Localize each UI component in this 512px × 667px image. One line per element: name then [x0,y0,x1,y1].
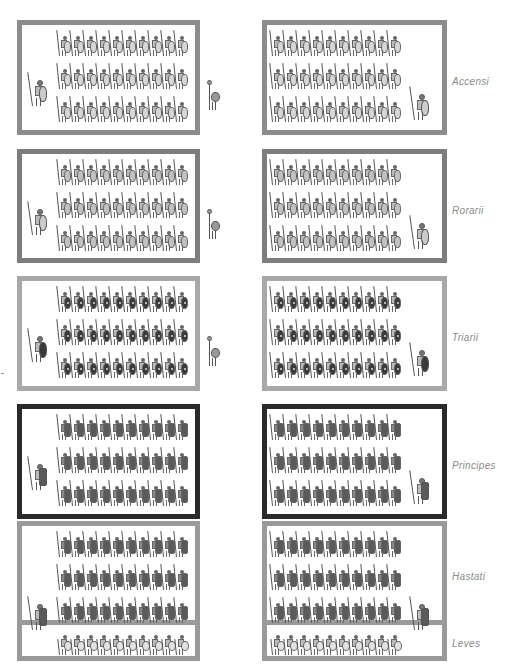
legs-part [62,245,66,251]
legs-part [36,622,41,630]
soldier-icon [388,414,401,440]
legs-part [379,649,383,655]
legs-part [418,112,423,120]
soldier-icon [110,629,123,655]
legs-part [314,584,318,590]
soldier-icon [375,629,388,655]
legs-part [179,50,183,56]
legs-part [379,306,383,312]
rank-row [58,319,188,345]
soldier-icon [175,63,188,89]
legs-part [392,551,396,557]
standard-bearer-icon [206,209,220,239]
legs-part [366,649,370,655]
spear-part [57,639,60,655]
legs-part [314,649,318,655]
legs-part [114,500,118,506]
rank-row [271,414,401,440]
legs-part [288,83,292,89]
soldier-icon [388,531,401,557]
legs-part [392,306,396,312]
soldier-icon [175,352,188,378]
legs-part [353,116,357,122]
legs-part [75,584,79,590]
soldier-icon [349,629,362,655]
legs-part [88,212,92,218]
legs-part [301,245,305,251]
legs-part [153,500,157,506]
legs-part [114,339,118,345]
soldier-icon [97,629,110,655]
legs-part [275,116,279,122]
rank-row [271,597,401,623]
rank-row [271,225,401,251]
legs-part [327,584,331,590]
spear-part [83,639,86,655]
legs-part [301,467,305,473]
legs-part [88,500,92,506]
legs-part [140,584,144,590]
legs-part [153,116,157,122]
legs-part [75,617,79,623]
legs-part [301,649,305,655]
legs-part [392,617,396,623]
legs-part [392,83,396,89]
legs-part [62,116,66,122]
centurion-icon [412,342,428,376]
legs-part [101,212,105,218]
legs-part [166,584,170,590]
centurion-icon [30,201,46,235]
legs-part [140,179,144,185]
legs-part [353,212,357,218]
legs-part [288,551,292,557]
spear-part [270,639,273,655]
rank-row-leves [271,629,401,655]
legs-part [314,306,318,312]
legs-part [179,306,183,312]
legs-part [179,467,183,473]
legs-part [127,245,131,251]
legs-part [101,50,105,56]
soldier-icon [175,480,188,506]
legs-part [288,306,292,312]
legs-part [153,434,157,440]
legs-part [36,227,41,235]
legs-part [88,584,92,590]
legs-part [36,354,41,362]
legs-part [88,467,92,473]
soldier-icon [388,352,401,378]
legs-part [140,306,144,312]
spear-part [109,639,112,655]
soldier-icon [284,629,297,655]
legs-part [366,551,370,557]
legs-part [392,50,396,56]
shield-part [211,221,220,231]
legs-part [379,372,383,378]
soldier-icon [175,564,188,590]
legs-part [314,179,318,185]
legs-part [353,306,357,312]
legs-part [153,212,157,218]
legs-part [340,339,344,345]
legs-part [379,551,383,557]
legs-part [166,649,170,655]
legs-part [101,116,105,122]
spear-part [387,639,390,655]
legs-part [127,50,131,56]
centurion-icon [412,596,428,630]
legs-part [327,467,331,473]
legs-part [88,179,92,185]
soldier-icon [388,96,401,122]
legs-part [379,617,383,623]
legs-part [153,584,157,590]
spear-part [348,639,351,655]
legs-part [153,179,157,185]
legs-part [353,339,357,345]
soldier-icon [388,629,401,655]
rank-row [271,63,401,89]
rank-row [58,597,188,623]
legs-part [327,434,331,440]
legs-part [36,482,41,490]
legs-part [179,179,183,185]
legs-part [275,245,279,251]
